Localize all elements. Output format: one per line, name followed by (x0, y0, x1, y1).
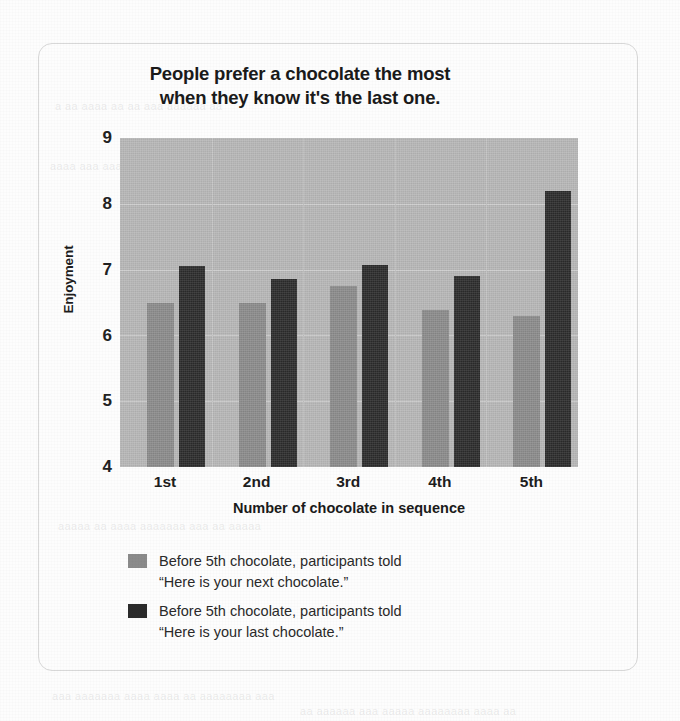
legend-label-last: Before 5th chocolate, participants told … (159, 601, 402, 642)
y-tick-8: 8 (78, 194, 112, 214)
legend-label-next: Before 5th chocolate, participants told … (159, 551, 402, 592)
bar-1st-next (147, 303, 174, 468)
bar-4th-next (422, 310, 449, 467)
x-tick-1st: 1st (120, 473, 210, 491)
legend-label-next-line-1: Before 5th chocolate, participants told (159, 553, 402, 569)
legend-item-next: Before 5th chocolate, participants told … (128, 551, 402, 592)
vgridline-2 (303, 138, 304, 467)
bar-1st-last (179, 266, 205, 467)
bar-4th-last (454, 276, 480, 467)
legend-label-last-line-1: Before 5th chocolate, participants told (159, 603, 402, 619)
plot-area (120, 138, 578, 467)
y-tick-9: 9 (78, 128, 112, 148)
y-axis-label: Enjoyment (61, 200, 76, 360)
vgridline-1 (212, 138, 213, 467)
legend-label-next-line-2: “Here is your next chocolate.” (159, 572, 402, 593)
chart-title: People prefer a chocolate the most when … (60, 62, 540, 111)
x-tick-3rd: 3rd (303, 473, 393, 491)
y-tick-6: 6 (78, 326, 112, 346)
vgridline-4 (486, 138, 487, 467)
chart-legend: Before 5th chocolate, participants told … (128, 551, 402, 651)
legend-swatch-next-icon (128, 554, 147, 568)
x-tick-2nd: 2nd (212, 473, 302, 491)
y-tick-7: 7 (78, 260, 112, 280)
legend-swatch-last-icon (128, 604, 147, 618)
bar-2nd-last (271, 279, 297, 467)
bar-5th-next (513, 316, 540, 467)
y-tick-5: 5 (78, 391, 112, 411)
x-tick-5th: 5th (486, 473, 576, 491)
bar-3rd-next (330, 286, 357, 467)
x-tick-4th: 4th (395, 473, 485, 491)
legend-label-last-line-2: “Here is your last chocolate.” (159, 622, 402, 643)
ghost-text-5: aa aaaaaa aaa aaaaa aaaaaaaa aaaa aa (300, 705, 516, 717)
chart-title-line-2: when they know it's the last one. (160, 87, 440, 108)
page-background: a aa aaaa aa aa aaa aaaaaa aa aaaa aaa a… (0, 0, 680, 721)
bar-2nd-next (239, 303, 266, 468)
ghost-text-4: aaa aaaaaaa aaaa aaaa aa aaaaaaaa aaa (52, 690, 275, 702)
vgridline-3 (395, 138, 396, 467)
x-axis-label: Number of chocolate in sequence (120, 500, 578, 516)
legend-item-last: Before 5th chocolate, participants told … (128, 601, 402, 642)
gridline-8 (120, 204, 578, 205)
bar-5th-last (545, 191, 571, 467)
y-tick-4: 4 (78, 457, 112, 477)
bar-3rd-last (362, 265, 388, 467)
chart-title-line-1: People prefer a chocolate the most (150, 63, 451, 84)
